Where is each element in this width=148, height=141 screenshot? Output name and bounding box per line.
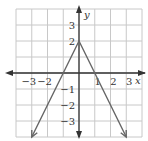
y-tick-label: 2 <box>69 36 75 47</box>
x-axis-left-arrow-icon <box>5 70 13 76</box>
y-axis-label: y <box>83 9 90 20</box>
y-tick-label: 3 <box>69 20 75 31</box>
x-axis-label: x <box>135 75 141 86</box>
coordinate-plane: −3−212332−1−2−3 x y <box>0 0 148 141</box>
y-tick-label: −2 <box>60 100 75 111</box>
x-tick-label: 2 <box>110 76 116 87</box>
y-tick-label: −3 <box>60 116 75 127</box>
x-tick-label: 3 <box>126 76 132 87</box>
x-tick-label: −2 <box>37 76 52 87</box>
y-axis-down-arrow-icon <box>76 131 82 139</box>
y-tick-label: −1 <box>60 84 75 95</box>
x-tick-label: −3 <box>21 76 36 87</box>
